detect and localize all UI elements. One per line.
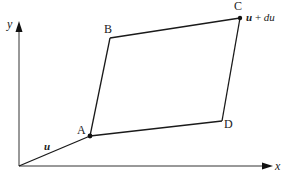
point-b-label: B [104, 22, 112, 36]
y-axis-label: y [6, 17, 13, 31]
point-c-annotation: u + du [246, 11, 275, 23]
point-d-label: D [224, 117, 233, 131]
point-a-label: A [77, 123, 86, 137]
annotation-plus: + [252, 11, 264, 23]
x-axis-label: x [274, 159, 281, 173]
quad-edge-ab [90, 38, 110, 136]
annotation-du: du [264, 11, 276, 23]
vector-u-label: u [44, 140, 50, 152]
diagram-canvas: y x A B C D u u + du [0, 0, 283, 176]
quad-edge-cd [222, 18, 240, 121]
point-c-marker [238, 16, 242, 20]
vector-u [19, 136, 90, 166]
point-a-marker [88, 134, 93, 139]
point-c-label: C [234, 0, 242, 13]
quad-edge-bc [110, 18, 240, 38]
y-axis-arrowhead-icon [16, 21, 23, 32]
quad-edge-da [90, 121, 222, 136]
x-axis-arrowhead-icon [262, 163, 273, 170]
